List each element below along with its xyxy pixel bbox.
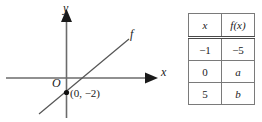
- cell-fx-row1: −5: [222, 38, 255, 61]
- column-header-fx: f(x): [222, 14, 255, 38]
- x-axis-arrowhead: [145, 73, 158, 84]
- point-marker: [64, 90, 69, 95]
- point-coordinate-label: (0, −2): [70, 88, 100, 99]
- table-row: 5 b: [189, 83, 255, 105]
- cell-x-row1: −1: [189, 38, 222, 61]
- table-row: 0 a: [189, 61, 255, 83]
- coordinate-graph: y x f O (0, −2): [0, 0, 180, 122]
- x-axis-label: x: [161, 66, 166, 78]
- cell-x-row2: 0: [189, 61, 222, 83]
- table-header-row: x f(x): [189, 14, 255, 38]
- column-header-x: x: [189, 14, 222, 38]
- cell-fx-row3: b: [222, 83, 255, 105]
- figure-container: y x f O (0, −2) x f(x) −1 −5 0 a 5 b: [0, 0, 262, 122]
- cell-fx-row2: a: [222, 61, 255, 83]
- function-value-table: x f(x) −1 −5 0 a 5 b: [188, 13, 255, 105]
- y-axis-label: y: [63, 2, 68, 14]
- origin-label: O: [52, 77, 61, 89]
- function-label: f: [130, 28, 133, 40]
- graph-svg: [0, 0, 180, 122]
- cell-x-row3: 5: [189, 83, 222, 105]
- table-row: −1 −5: [189, 38, 255, 61]
